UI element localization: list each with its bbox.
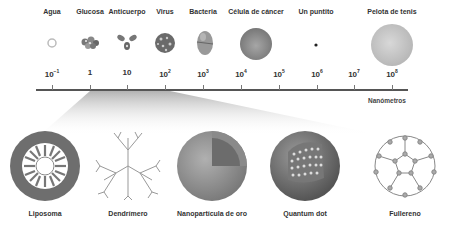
fullerene-icon xyxy=(374,136,436,197)
liposome-icon xyxy=(10,131,80,201)
label-quantum-dot: Quantum dot xyxy=(283,210,327,217)
tick-label: 106 xyxy=(311,68,323,79)
cancer-cell-icon xyxy=(240,28,272,60)
label-fullereno: Fullereno xyxy=(389,210,421,217)
tennis-ball-icon xyxy=(371,24,413,66)
dot-icon xyxy=(314,43,317,46)
nanostructure-illustrations xyxy=(0,130,450,210)
tick-label: 107 xyxy=(348,68,360,79)
label-nanoparticula-oro: Nanopartícula de oro xyxy=(177,210,247,217)
antibody-icon xyxy=(116,34,137,50)
tick-label: 104 xyxy=(235,68,247,79)
tick-label: 10−1 xyxy=(45,68,60,79)
label-liposoma: Liposoma xyxy=(28,210,61,217)
tick-label: 108 xyxy=(386,68,398,79)
tick-label: 103 xyxy=(197,68,209,79)
tick-label: 105 xyxy=(273,68,285,79)
tick-label: 102 xyxy=(159,68,171,79)
virus-icon xyxy=(155,33,175,53)
bacteria-icon xyxy=(197,31,213,55)
quantum-dot-icon xyxy=(270,131,340,201)
dendrimer-icon xyxy=(96,132,160,200)
water-molecule-icon xyxy=(48,39,56,47)
label-dendrimero: Dendrímero xyxy=(108,210,147,217)
object-illustrations xyxy=(0,0,450,70)
glucose-molecule-icon xyxy=(82,37,100,50)
tick-label: 1 xyxy=(88,68,92,77)
gold-nanoparticle-icon xyxy=(177,131,247,201)
tick-label: 10 xyxy=(123,68,132,77)
